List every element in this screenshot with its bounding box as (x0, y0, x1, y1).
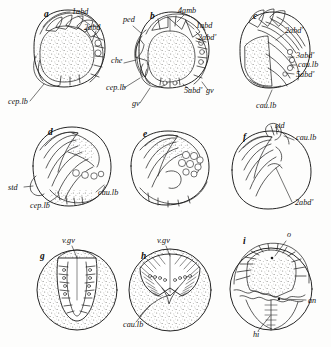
panel-letter-g: g (39, 251, 45, 261)
label-d-cep-lb: cep.lb (30, 201, 50, 210)
label-g-v-gv: v.gv (62, 236, 75, 245)
panel-i-stipple (246, 258, 296, 296)
label-b-ped: ped (122, 15, 136, 24)
label-b-2abd-prime: 2abd' (198, 33, 216, 42)
label-i-o: o (287, 230, 291, 239)
panel-letter-d: d (48, 127, 53, 137)
label-b-5abd-prime: 5abd' (184, 86, 202, 95)
label-c-3abd-prime: 3abd' (295, 51, 314, 60)
panel-c-stipple (244, 36, 272, 86)
plate-svg: a 1abd 2abd cep.lb (0, 0, 331, 347)
panel-letter-a: a (44, 9, 49, 19)
label-d-cau-lb: cau.lb (98, 188, 118, 197)
label-f-2abd-prime: 2abd' (295, 198, 313, 207)
panel-letter-c: c (253, 11, 258, 21)
panel-letter-h: h (141, 251, 146, 261)
panel-c: c 2abd' 3abd' cau.lb 5abd' cau.lb (240, 9, 318, 110)
label-f-std: std (275, 121, 285, 130)
panel-b: b 4amb ped 1abd 2abd' che cep.lb gv 5abd… (106, 6, 216, 108)
panel-g: g v.gv (37, 236, 117, 330)
panel-f: f std cau.lb 2abd' (232, 121, 316, 209)
panel-e: e (131, 129, 209, 207)
label-b-gv-2: gv (206, 86, 214, 95)
panel-h: h v.gv cau.lb (123, 236, 211, 331)
label-c-cau-lb-2: cau.lb (256, 101, 276, 110)
panel-d: d std cep.lb cau.lb (8, 127, 118, 210)
panel-letter-e: e (143, 129, 147, 139)
label-d-std: std (8, 183, 18, 192)
label-a-2abd: 2abd (84, 23, 101, 32)
label-f-cau-lb: cau.lb (296, 133, 316, 142)
panel-letter-f: f (243, 132, 247, 142)
label-c-2abd-prime: 2abd' (285, 26, 303, 35)
label-c-5abd-prime: 5abd' (296, 70, 314, 79)
label-b-4amb: 4amb (178, 6, 196, 15)
label-b-1abd: 1abd (196, 21, 213, 30)
illustration-plate: a 1abd 2abd cep.lb (0, 0, 331, 347)
label-b-gv: gv (132, 99, 140, 108)
panel-i: i o an hi (230, 230, 316, 339)
label-c-cau-lb: cau.lb (298, 60, 318, 69)
panel-d-stipple (50, 133, 96, 204)
label-i-hi: hi (253, 330, 260, 339)
label-a-1abd: 1abd (72, 7, 89, 16)
panel-letter-b: b (150, 11, 155, 21)
label-h-v-gv: v.gv (157, 236, 170, 245)
panel-a: a 1abd 2abd cep.lb (8, 7, 105, 106)
label-b-che: che (111, 56, 123, 65)
label-a-cep-lb: cep.lb (8, 97, 28, 106)
label-i-an: an (308, 296, 316, 305)
label-h-cau-lb: cau.lb (123, 320, 143, 329)
label-b-cep-lb: cep.lb (106, 83, 126, 92)
panel-letter-i: i (243, 236, 246, 246)
